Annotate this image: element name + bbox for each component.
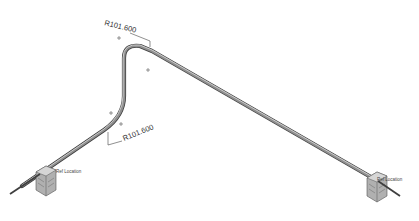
pipe-drawing-canvas: R101.600 R101.600 Ref Location Ref Locat… [0,0,419,221]
dimension-bend-radius-lower[interactable]: R101.600 [108,122,155,145]
dimension-label-lower: R101.600 [121,122,155,143]
dimension-bend-radius-top[interactable]: R101.600 [104,18,150,47]
support-right[interactable]: Ref Location [367,172,403,202]
pipe-stub-left [10,174,40,194]
pipe-run[interactable] [22,45,383,186]
support-right-label: Ref Location [377,177,403,182]
support-left[interactable]: Ref Location [36,166,82,196]
support-left-label: Ref Location [56,169,82,174]
dimension-label-top: R101.600 [104,18,138,35]
